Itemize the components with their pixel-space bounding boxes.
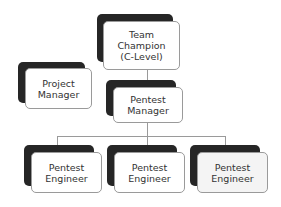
connector-manager-down (147, 123, 148, 136)
team-champion-node: Team Champion (C-Level) (103, 21, 180, 70)
pentest-engineer-1-node: Pentest Engineer (31, 152, 102, 193)
pentest-engineer-3-node: Pentest Engineer (197, 152, 268, 193)
project-manager-node: Project Manager (25, 68, 92, 109)
connector-horizontal-bus (57, 136, 226, 137)
pentest-manager-node: Pentest Manager (113, 87, 183, 123)
pentest-engineer-2-node: Pentest Engineer (114, 152, 185, 193)
